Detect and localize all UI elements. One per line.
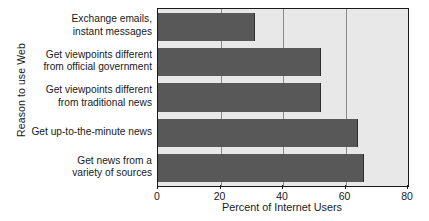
x-tick-mark xyxy=(157,185,158,189)
x-tick-mark xyxy=(345,185,346,189)
bar xyxy=(158,13,255,41)
category-label-line: instant messages xyxy=(18,26,152,38)
category-label-line: Get viewpoints different xyxy=(18,84,152,96)
category-label-line: Get viewpoints different xyxy=(18,49,152,61)
bar xyxy=(158,154,364,182)
x-axis-title: Percent of Internet Users xyxy=(157,201,407,213)
category-label: Get viewpoints differentfrom official go… xyxy=(18,49,152,74)
bar xyxy=(158,83,321,111)
bar xyxy=(158,119,358,147)
category-label-line: Get up-to-the-minute news xyxy=(18,126,152,138)
category-label: Get news from avariety of sources xyxy=(18,155,152,180)
category-label-list: Exchange emails,instant messagesGet view… xyxy=(18,8,152,185)
bar xyxy=(158,48,321,76)
plot-area xyxy=(157,8,409,187)
category-label: Exchange emails,instant messages xyxy=(18,13,152,38)
bar-chart-figure: Reason to use Web Exchange emails,instan… xyxy=(0,0,429,221)
x-tick-mark xyxy=(282,185,283,189)
category-label-line: Get news from a xyxy=(18,155,152,167)
category-label: Get up-to-the-minute news xyxy=(18,126,152,138)
category-label: Get viewpoints differentfrom traditional… xyxy=(18,84,152,109)
category-label-line: from traditional news xyxy=(18,97,152,109)
category-label-line: Exchange emails, xyxy=(18,13,152,25)
category-label-line: from official government xyxy=(18,61,152,73)
x-tick-mark xyxy=(220,185,221,189)
bars-layer xyxy=(158,9,408,186)
x-tick-mark xyxy=(407,185,408,189)
category-label-line: variety of sources xyxy=(18,167,152,179)
